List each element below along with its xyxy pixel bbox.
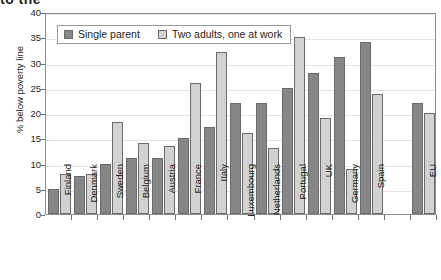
bar	[334, 57, 345, 214]
y-tick-mark	[41, 215, 45, 216]
x-tick-label: France	[192, 164, 203, 222]
x-tick-label: EU	[427, 164, 438, 222]
legend-swatch-two-adults	[158, 30, 167, 39]
y-tick-label: 25	[13, 84, 41, 94]
bar	[360, 42, 371, 214]
bar-chart: to the % below poverty line 051015202530…	[0, 0, 441, 280]
bar	[74, 176, 85, 214]
y-tick-label: 10	[13, 160, 41, 170]
y-tick-label: 40	[13, 8, 41, 18]
bar	[412, 103, 423, 214]
bar	[230, 103, 241, 214]
legend-label: Single parent	[78, 29, 140, 40]
legend-item: Single parent	[64, 29, 140, 40]
x-tick-mark	[410, 215, 411, 220]
x-tick-label: Belgium	[140, 164, 151, 222]
x-tick-label: Austria	[166, 164, 177, 222]
bar	[308, 73, 319, 214]
legend-label: Two adults, one at work	[172, 29, 282, 40]
y-tick-label: 15	[13, 134, 41, 144]
y-tick-label: 20	[13, 109, 41, 119]
legend-item: Two adults, one at work	[158, 29, 282, 40]
x-tick-label: Sweden	[114, 164, 125, 222]
bar	[282, 88, 293, 214]
legend: Single parent Two adults, one at work	[57, 25, 291, 44]
legend-swatch-single-parent	[64, 30, 73, 39]
y-tick-label: 35	[13, 33, 41, 43]
x-tick-label: Luxembourg	[245, 164, 256, 222]
y-tick-label: 5	[13, 185, 41, 195]
bar	[48, 189, 59, 214]
x-tick-label: Italy	[218, 164, 229, 222]
y-tick-label: 30	[13, 59, 41, 69]
x-tick-label: Denmark	[88, 164, 99, 222]
bar	[126, 158, 137, 214]
x-tick-label: Germany	[349, 164, 360, 222]
bar	[256, 103, 267, 214]
bar	[204, 127, 215, 214]
x-tick-label: Portugal	[297, 164, 308, 222]
bar	[152, 158, 163, 214]
bar-group	[385, 14, 411, 214]
x-tick-label: Spain	[375, 164, 386, 222]
x-tick-label: UK	[323, 164, 334, 222]
y-tick-label: 0	[13, 210, 41, 220]
bar	[100, 164, 111, 215]
bar	[178, 138, 189, 214]
x-tick-label: Finland	[62, 164, 73, 222]
x-tick-label: Netherlands	[271, 164, 282, 222]
